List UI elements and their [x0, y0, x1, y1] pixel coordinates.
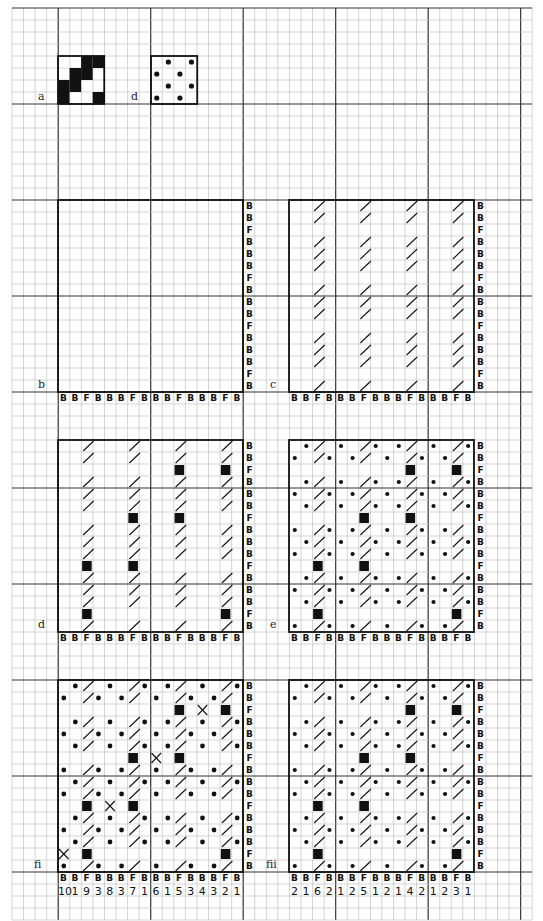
dot-mark: [200, 816, 205, 821]
filled-square: [313, 561, 323, 571]
slash-mark: [360, 453, 371, 463]
column-label: B: [231, 633, 242, 643]
row-label: B: [475, 381, 486, 391]
dot-mark: [166, 59, 171, 64]
column-label: B: [116, 873, 127, 883]
slash-mark: [360, 357, 371, 367]
row-label: F: [475, 561, 486, 571]
column-label: B: [335, 873, 346, 883]
slash-mark: [314, 381, 325, 391]
slash-mark: [360, 525, 371, 535]
slash-mark: [176, 681, 187, 691]
dot-mark: [165, 816, 170, 821]
slash-mark: [222, 729, 233, 739]
dot-mark: [431, 576, 435, 580]
filled-square: [406, 465, 416, 475]
column-label: B: [428, 873, 439, 883]
slash-mark: [222, 489, 233, 499]
count-number: 1: [370, 885, 381, 898]
slash-mark: [176, 537, 187, 547]
dot-mark: [212, 768, 217, 773]
column-label: F: [405, 873, 416, 883]
count-number: 2: [289, 885, 300, 898]
slash-mark: [83, 825, 94, 835]
slash-mark: [83, 537, 94, 547]
dot-mark: [293, 732, 297, 736]
dot-mark: [339, 504, 343, 508]
slash-mark: [453, 453, 464, 463]
column-label: B: [197, 393, 208, 403]
dot-mark: [350, 492, 354, 496]
count-number: 4: [197, 885, 208, 898]
row-label: B: [475, 249, 486, 259]
slash-mark: [129, 585, 140, 595]
dot-mark: [212, 732, 217, 737]
column-label: B: [162, 633, 173, 643]
column-label: F: [358, 393, 369, 403]
filled-square: [359, 513, 369, 523]
column-label: B: [104, 873, 115, 883]
slash-mark: [176, 717, 187, 727]
row-label: F: [475, 369, 486, 379]
slash-mark: [453, 345, 464, 355]
panel-label-a: a: [38, 90, 45, 103]
column-label: F: [405, 393, 416, 403]
filled-square: [81, 68, 93, 80]
dot-mark: [420, 828, 424, 832]
dot-mark: [443, 768, 447, 772]
column-label: B: [324, 633, 335, 643]
panel-label-d-top: d: [131, 90, 138, 103]
row-label: B: [244, 333, 255, 343]
count-number: 1: [70, 885, 81, 898]
slash-mark: [83, 729, 94, 739]
dot-mark: [339, 444, 343, 448]
slash-mark: [407, 777, 418, 787]
slash-mark: [83, 693, 94, 703]
dot-mark: [397, 840, 401, 844]
slash-mark: [129, 621, 140, 631]
dot-mark: [96, 768, 101, 773]
column-label: B: [231, 873, 242, 883]
column-label: B: [416, 633, 427, 643]
row-label: B: [244, 585, 255, 595]
column-label: B: [162, 393, 173, 403]
slash-mark: [176, 621, 187, 631]
slash-mark: [360, 345, 371, 355]
dot-mark: [73, 780, 78, 785]
row-label: B: [475, 573, 486, 583]
row-label: B: [475, 621, 486, 631]
slash-mark: [453, 717, 464, 727]
slash-mark: [453, 765, 464, 775]
slash-mark: [314, 789, 325, 799]
slash-mark: [407, 261, 418, 271]
slash-mark: [83, 525, 94, 535]
filled-square: [452, 609, 462, 619]
slash-mark: [222, 621, 233, 631]
slash-mark: [129, 441, 140, 451]
filled-square: [93, 92, 105, 104]
dot-mark: [350, 732, 354, 736]
dot-mark: [293, 456, 297, 460]
row-label: B: [244, 249, 255, 259]
row-label: B: [475, 693, 486, 703]
row-label: B: [475, 333, 486, 343]
row-label: B: [475, 729, 486, 739]
dot-mark: [293, 696, 297, 700]
dot-mark: [142, 684, 147, 689]
count-number: 1: [335, 885, 346, 898]
dot-mark: [350, 828, 354, 832]
filled-square: [70, 68, 82, 80]
slash-mark: [453, 861, 464, 871]
slash-mark: [453, 441, 464, 451]
column-label: B: [139, 633, 150, 643]
slash-mark: [314, 309, 325, 319]
slash-mark: [176, 573, 187, 583]
column-label: B: [139, 873, 150, 883]
column-label: B: [93, 633, 104, 643]
filled-square: [359, 561, 369, 571]
dot-mark: [443, 828, 447, 832]
dot-mark: [189, 59, 194, 64]
dot-mark: [61, 696, 66, 701]
slash-mark: [360, 381, 371, 391]
dot-mark: [304, 540, 308, 544]
